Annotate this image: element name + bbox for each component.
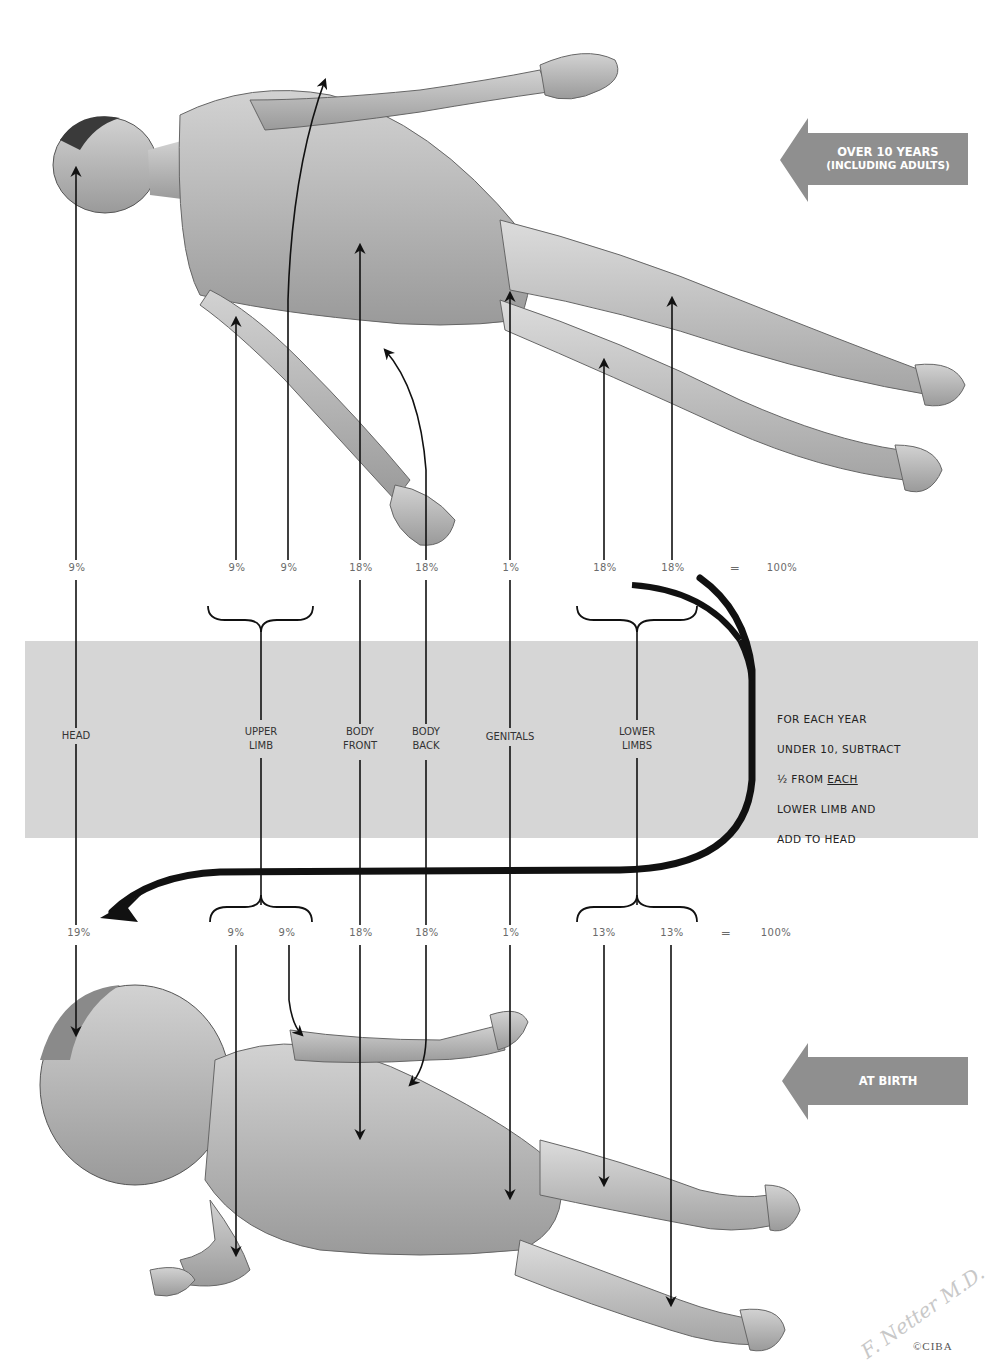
head-label: HEAD: [62, 730, 90, 741]
birth-body-back-pct: 18%: [414, 927, 440, 939]
region-label-body-front: BODY FRONT: [341, 724, 379, 754]
region-label-head: HEAD: [60, 728, 92, 744]
copyright-notice: ©CIBA: [913, 1340, 953, 1352]
adult-lower-limb-2-pct: 18%: [660, 562, 686, 574]
body-back-label-line1: BODY: [412, 725, 440, 739]
body-front-label-line2: FRONT: [343, 739, 377, 753]
note-line-5: ADD TO HEAD: [777, 832, 901, 847]
diagram-graphics: [0, 0, 1002, 1370]
adult-upper-limb-1-pct: 9%: [228, 562, 247, 574]
adult-lower-limb-1-pct: 18%: [592, 562, 618, 574]
adult-age-tag: OVER 10 YEARS (INCLUDING ADULTS): [808, 133, 968, 185]
body-front-label-line1: BODY: [343, 725, 377, 739]
birth-lower-limb-2-pct: 13%: [659, 927, 685, 939]
adult-tag-line1: OVER 10 YEARS: [826, 146, 950, 159]
note-line-4: LOWER LIMB AND: [777, 802, 901, 817]
lower-limbs-label-line2: LIMBS: [619, 739, 655, 753]
birth-upper-limb-1-pct: 9%: [227, 927, 246, 939]
birth-head-pct: 19%: [66, 927, 92, 939]
note-line-1: FOR EACH YEAR: [777, 712, 901, 727]
region-label-genitals: GENITALS: [484, 729, 537, 745]
birth-lower-limb-1-pct: 13%: [591, 927, 617, 939]
region-label-upper-limb: UPPER LIMB: [243, 724, 280, 754]
rule-of-nines-diagram: 9% 9% 9% 18% 18% 1% 18% 18% = 100% 19% 9…: [0, 0, 1002, 1370]
note-line-3-text: ½ FROM: [777, 773, 827, 785]
birth-tag-label: AT BIRTH: [859, 1075, 918, 1088]
upper-limb-label-line2: LIMB: [245, 739, 278, 753]
adult-head-pct: 9%: [68, 562, 87, 574]
region-label-body-back: BODY BACK: [410, 724, 442, 754]
adult-genitals-pct: 1%: [502, 562, 521, 574]
birth-genitals-pct: 1%: [502, 927, 521, 939]
body-back-label-line2: BACK: [412, 739, 440, 753]
baby-figure: [40, 985, 800, 1351]
birth-age-tag: AT BIRTH: [808, 1057, 968, 1105]
adult-body-back-pct: 18%: [414, 562, 440, 574]
adult-equals-sign: =: [729, 562, 742, 574]
adult-figure: [53, 54, 965, 546]
adult-tag-line2: (INCLUDING ADULTS): [826, 159, 950, 172]
adult-upper-limb-2-pct: 9%: [280, 562, 299, 574]
upper-limb-label-line1: UPPER: [245, 725, 278, 739]
birth-total-pct: 100%: [760, 927, 793, 939]
note-emphasis-each: EACH: [827, 773, 857, 785]
birth-equals-sign: =: [720, 927, 733, 939]
adult-total-pct: 100%: [766, 562, 799, 574]
lower-limbs-label-line1: LOWER: [619, 725, 655, 739]
birth-body-front-pct: 18%: [348, 927, 374, 939]
region-label-lower-limbs: LOWER LIMBS: [617, 724, 657, 754]
note-line-3: ½ FROM EACH: [777, 772, 901, 787]
note-line-2: UNDER 10, SUBTRACT: [777, 742, 901, 757]
birth-upper-limb-2-pct: 9%: [278, 927, 297, 939]
adult-body-front-pct: 18%: [348, 562, 374, 574]
genitals-label: GENITALS: [486, 731, 535, 742]
age-adjustment-note: FOR EACH YEAR UNDER 10, SUBTRACT ½ FROM …: [777, 697, 901, 862]
